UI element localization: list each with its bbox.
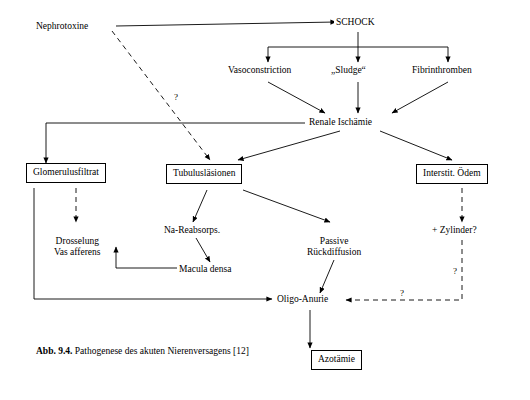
node-zylinder-label: + Zylinder?: [432, 225, 477, 235]
node-glomerulusfiltrat-label: Glomerulusfiltrat: [33, 167, 99, 177]
node-renale-ischaemie: Renale Ischämie: [307, 116, 374, 129]
node-schock-label: SCHOCK: [336, 17, 375, 27]
node-tubuluslaesionen-label: Tubulusläsionen: [173, 168, 235, 178]
node-passive-rueckdiffusion: Passive Rückdiffusion: [305, 224, 363, 259]
node-interstit-oedem: Interstit. Ödem: [416, 164, 488, 184]
node-macula-densa-label: Macula densa: [179, 264, 232, 274]
node-zylinder: + Zylinder?: [430, 224, 479, 237]
node-fibrinthromben-label: Fibrinthromben: [412, 65, 472, 75]
node-renale-ischaemie-label: Renale Ischämie: [309, 117, 372, 127]
node-vasoconstriction-label: Vasoconstriction: [228, 65, 291, 75]
node-tubuluslaesionen: Tubulusläsionen: [166, 164, 242, 184]
node-nephrotoxine: Nephrotoxine: [34, 20, 90, 33]
node-azotaemie: Azotämie: [311, 350, 362, 370]
node-nephrotoxine-label: Nephrotoxine: [36, 21, 88, 31]
annotation-q1-label: ?: [174, 92, 178, 102]
node-interstit-oedem-label: Interstit. Ödem: [423, 168, 481, 178]
node-azotaemie-label: Azotämie: [318, 354, 355, 364]
annotation-question-nephrotoxine: ?: [173, 92, 179, 102]
figure-caption: Abb. 9.4. Pathogenese des akuten Nierenv…: [36, 346, 249, 356]
node-fibrinthromben: Fibrinthromben: [410, 64, 474, 77]
node-sludge: „Sludge“: [329, 64, 368, 77]
figure-caption-number: Abb. 9.4.: [36, 346, 72, 356]
node-passive-rueckdiffusion-label: Passive Rückdiffusion: [307, 236, 361, 257]
node-oligo-anurie: Oligo-Anurie: [275, 293, 330, 306]
node-drosselung-label: Drosselung Vas afferens: [54, 236, 101, 257]
annotation-question-oligo-anurie: ?: [399, 288, 405, 298]
node-vasoconstriction: Vasoconstriction: [226, 64, 293, 77]
node-glomerulusfiltrat: Glomerulusfiltrat: [26, 163, 106, 183]
node-na-reabsorps: Na-Reabsorps.: [162, 224, 222, 237]
diagram-connectors: [0, 0, 530, 400]
annotation-q2-label: ?: [400, 288, 404, 298]
node-schock: SCHOCK: [334, 16, 377, 29]
figure-canvas: Nephrotoxine SCHOCK Vasoconstriction „Sl…: [0, 0, 530, 400]
node-drosselung-vas-afferens: Drosselung Vas afferens: [52, 224, 103, 259]
annotation-q3-label: ?: [453, 266, 457, 276]
figure-caption-text: Pathogenese des akuten Nierenversagens […: [75, 346, 249, 356]
node-oligo-anurie-label: Oligo-Anurie: [277, 294, 328, 304]
node-sludge-label: „Sludge“: [331, 65, 366, 75]
annotation-question-zylinder: ?: [452, 266, 458, 276]
node-na-reabsorps-label: Na-Reabsorps.: [164, 225, 220, 235]
node-macula-densa: Macula densa: [177, 263, 234, 276]
